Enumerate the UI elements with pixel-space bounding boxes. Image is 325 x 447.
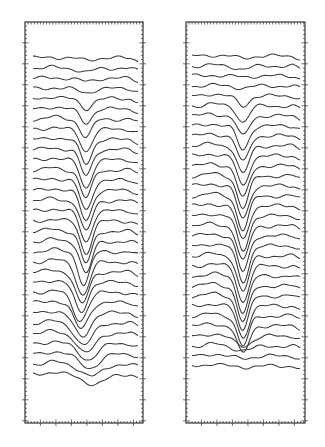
profile-trace	[33, 228, 138, 262]
profile-trace	[192, 244, 300, 283]
profile-trace	[33, 280, 138, 312]
profile-trace	[33, 209, 138, 242]
profile-trace	[192, 204, 300, 239]
right-panel	[183, 22, 308, 426]
profile-trace	[192, 94, 300, 107]
profile-trace	[33, 65, 138, 72]
profile-trace	[192, 74, 300, 79]
plot-frame	[25, 22, 143, 423]
profile-trace	[192, 184, 300, 218]
profile-trace	[192, 163, 300, 196]
profile-trace	[33, 219, 138, 255]
profile-trace	[33, 188, 138, 220]
profile-trace	[192, 83, 300, 89]
profile-trace	[192, 252, 300, 291]
profile-trace	[33, 87, 138, 93]
profile-trace	[33, 107, 138, 124]
profile-trace	[192, 113, 300, 134]
profile-trace	[33, 269, 138, 303]
profile-trace	[192, 354, 300, 359]
profile-trace	[33, 329, 138, 351]
profile-trace	[33, 56, 138, 62]
profile-trace	[33, 167, 138, 197]
profile-trace	[33, 115, 138, 137]
profile-trace	[33, 76, 138, 82]
profile-trace	[33, 238, 138, 273]
stacked-line-profiles-figure	[0, 0, 325, 447]
profile-trace	[192, 313, 300, 346]
profile-trace	[33, 138, 138, 165]
left-panel	[22, 22, 146, 426]
profile-trace	[192, 283, 300, 322]
profile-trace	[33, 158, 138, 188]
profile-trace	[33, 259, 138, 295]
profile-trace	[192, 54, 300, 60]
profile-trace	[192, 222, 300, 259]
profile-trace	[33, 178, 138, 209]
profile-trace	[192, 363, 300, 369]
plot-frame	[186, 22, 305, 423]
profile-trace	[192, 64, 300, 70]
profile-trace	[33, 197, 138, 230]
profile-trace	[192, 124, 300, 150]
